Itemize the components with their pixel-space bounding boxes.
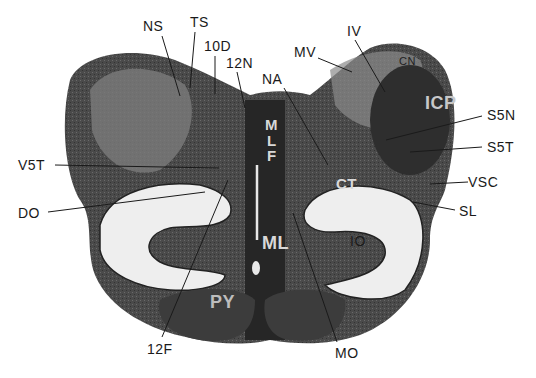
label-NS: NS	[143, 19, 163, 33]
label-CT: CT	[336, 176, 357, 191]
label-VSC: VSC	[468, 175, 498, 189]
label-IV: IV	[347, 24, 361, 38]
label-S5N: S5N	[487, 108, 516, 122]
label-DO: DO	[18, 206, 40, 220]
label-ICP: ICP	[425, 94, 457, 112]
label-S5T: S5T	[487, 140, 514, 154]
tissue-section-drawing	[0, 0, 536, 378]
label-V5T: V5T	[18, 158, 45, 172]
label-MO: MO	[335, 346, 359, 360]
label-IO: IO	[350, 234, 366, 248]
label-SL: SL	[459, 204, 477, 218]
medulla-section-figure: NS TS 10D 12N NA MV IV S5N S5T V5T VSC D…	[0, 0, 536, 378]
label-ML: ML	[262, 234, 289, 252]
label-PY: PY	[210, 293, 235, 311]
label-12N: 12N	[226, 56, 253, 70]
label-L: L	[267, 133, 277, 148]
label-12F: 12F	[147, 342, 173, 356]
label-NA: NA	[262, 72, 282, 86]
label-10D: 10D	[204, 39, 231, 53]
label-M: M	[265, 117, 278, 132]
label-F: F	[267, 148, 277, 163]
label-MV: MV	[294, 45, 316, 59]
label-CN: CN	[399, 56, 416, 67]
label-TS: TS	[190, 15, 209, 29]
